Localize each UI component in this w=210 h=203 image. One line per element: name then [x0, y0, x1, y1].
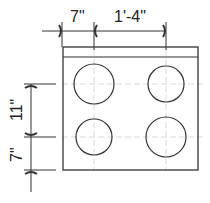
vertical-dimension	[24, 84, 56, 192]
dim-bottom-offset: 7"	[8, 147, 25, 162]
dim-burner-spacing-h: 1'-4"	[114, 8, 146, 25]
dim-left-offset: 7"	[70, 8, 85, 25]
cooktop-diagram: 7" 1'-4" 11" 7"	[0, 0, 210, 203]
horizontal-dimension	[42, 22, 166, 50]
dim-burner-spacing-v: 11"	[8, 99, 25, 121]
